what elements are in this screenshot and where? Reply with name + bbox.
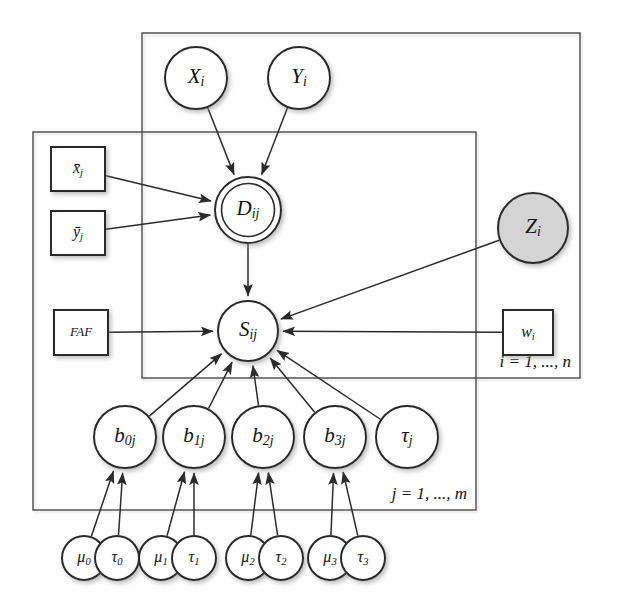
edge-mu_1-to-b1_j (167, 472, 184, 536)
node-y-i[interactable]: Yi (268, 47, 330, 109)
node-z-i[interactable]: Zi (498, 193, 568, 263)
edges-layer (91, 108, 502, 536)
node-xbar-j[interactable]: x̄j (51, 147, 105, 191)
plate-diagram-figure: i = 1, ..., nj = 1, ..., m XiYiDijSijZix… (0, 0, 618, 612)
node-ybar-j[interactable]: ȳj (51, 211, 105, 255)
edge-faf-to-s_ij (109, 331, 213, 332)
node-d-ij[interactable]: Dij (215, 177, 281, 243)
node-s-ij[interactable]: Sij (218, 301, 278, 361)
node-tau-0[interactable]: τ0 (95, 536, 139, 580)
edge-x_i-to-d_ij (208, 108, 234, 175)
node-label: FAF (69, 323, 93, 338)
plate-label: j = 1, ..., m (390, 484, 467, 503)
node-tau-1[interactable]: τ1 (172, 536, 216, 580)
node-faf[interactable]: FAF (54, 310, 108, 355)
edge-mu_2-to-b2_j (251, 473, 259, 535)
nodes-layer: XiYiDijSijZix̄jȳjFAFwib0jb1jb2jb3jτjμ0τ… (51, 47, 568, 580)
edge-tau_0-to-b0_j (119, 473, 123, 535)
edge-b1_j-to-s_ij (209, 362, 233, 408)
node-b2-j[interactable]: b2j (232, 406, 294, 468)
graph-canvas: i = 1, ..., nj = 1, ..., m XiYiDijSijZix… (0, 0, 618, 612)
node-tau-2[interactable]: τ2 (259, 536, 303, 580)
edge-mu_3-to-b3_j (331, 473, 334, 535)
node-tau-3[interactable]: τ3 (341, 536, 385, 580)
edge-z_i-to-s_ij (281, 240, 499, 319)
edge-b3_j-to-s_ij (270, 358, 314, 412)
edge-b2_j-to-s_ij (253, 366, 259, 406)
node-b1-j[interactable]: b1j (163, 406, 225, 468)
edge-xbar_j-to-d_ij (106, 176, 211, 201)
node-tau-j[interactable]: τj (376, 406, 438, 468)
node-b3-j[interactable]: b3j (304, 406, 366, 468)
edge-mu_0-to-b0_j (91, 471, 113, 536)
edge-tau_2-to-b2_j (268, 473, 277, 536)
node-x-i[interactable]: Xi (165, 47, 227, 109)
edge-tau_3-to-b3_j (343, 472, 358, 536)
node-w-i[interactable]: wi (503, 310, 553, 355)
edge-ybar_j-to-d_ij (106, 215, 210, 229)
node-b0-j[interactable]: b0j (94, 406, 156, 468)
edge-w_i-to-s_ij (283, 331, 502, 332)
edge-y_i-to-d_ij (262, 108, 288, 175)
